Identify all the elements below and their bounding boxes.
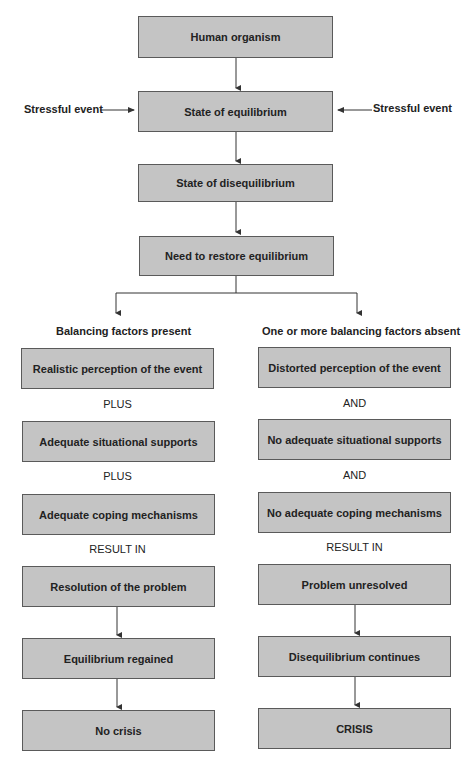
box-adequate-situational-supports: Adequate situational supports [22, 421, 215, 462]
label-stressful-event-right: Stressful event [373, 102, 452, 114]
label-stressful-event-left: Stressful event [24, 103, 103, 115]
connector-plus-1: PLUS [21, 398, 214, 410]
box-distorted-perception: Distorted perception of the event [258, 347, 451, 388]
box-resolution-of-the-problem: Resolution of the problem [22, 566, 215, 607]
box-no-adequate-coping-mechanisms: No adequate coping mechanisms [258, 492, 451, 533]
label-result-in-left: RESULT IN [21, 543, 214, 555]
box-disequilibrium-continues: Disequilibrium continues [258, 636, 451, 677]
box-need-to-restore-equilibrium: Need to restore equilibrium [139, 236, 334, 276]
heading-balancing-factors-absent: One or more balancing factors absent [262, 325, 460, 337]
box-no-crisis: No crisis [22, 710, 215, 751]
box-adequate-coping-mechanisms: Adequate coping mechanisms [22, 494, 215, 535]
box-state-of-disequilibrium: State of disequilibrium [138, 164, 333, 202]
box-no-adequate-situational-supports: No adequate situational supports [258, 419, 451, 460]
box-realistic-perception: Realistic perception of the event [21, 348, 214, 389]
connector-and-2: AND [258, 469, 451, 481]
connector-and-1: AND [258, 397, 451, 409]
box-crisis: CRISIS [258, 708, 451, 749]
box-human-organism: Human organism [138, 16, 333, 58]
connector-plus-2: PLUS [21, 470, 214, 482]
box-problem-unresolved: Problem unresolved [258, 564, 451, 605]
box-state-of-equilibrium: State of equilibrium [138, 91, 333, 132]
label-result-in-right: RESULT IN [258, 541, 451, 553]
box-equilibrium-regained: Equilibrium regained [22, 638, 215, 679]
heading-balancing-factors-present: Balancing factors present [56, 325, 191, 337]
